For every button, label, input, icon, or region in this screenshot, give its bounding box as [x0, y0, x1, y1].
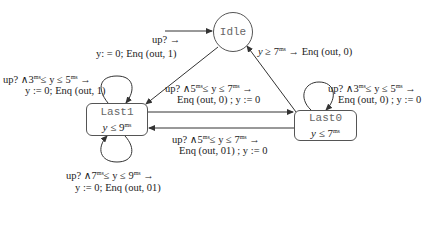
- label-last0-self-action: Enq (out, 0) ; y := 0: [338, 93, 421, 107]
- state-last0-invariant: y ≤ 7ms: [311, 125, 340, 140]
- label-last1-last0-action: Enq (out, 0) ; y := 0: [177, 93, 260, 107]
- state-last1-label: Last1: [100, 106, 133, 119]
- state-last1: Last1 y ≤ 9ms: [86, 103, 148, 136]
- label-last1-selftop-action: y := 0; Enq (out, 1): [25, 84, 106, 98]
- label-init-guard: up? →: [128, 33, 228, 47]
- label-last0-idle: y y ≥ 7≥ 7ms → Enq (out, 0): [258, 42, 352, 59]
- label-last1-selfbottom-action: y := 0; Enq (out, 01): [75, 181, 161, 195]
- state-last1-invariant: y ≤ 9ms: [103, 119, 132, 134]
- state-last0: Last0 y ≤ 7ms: [294, 110, 357, 141]
- state-last0-label: Last0: [309, 112, 342, 125]
- label-last0-last1-action: Enq (out, 01) ; y := 0: [179, 144, 267, 158]
- selfloop-last1-bottom: [101, 136, 132, 162]
- label-init-action: y: = 0; Enq (out, 1): [96, 47, 177, 61]
